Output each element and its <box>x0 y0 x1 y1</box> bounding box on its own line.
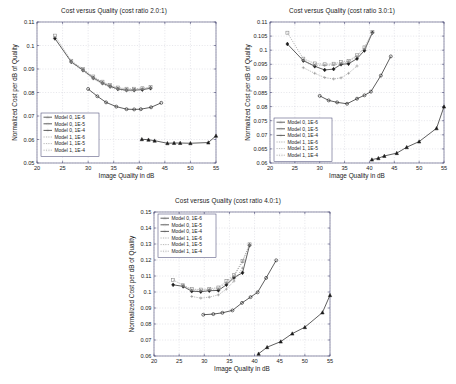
x-tick-label: 35 <box>226 358 232 364</box>
series-model-1-1e-6 <box>192 268 243 298</box>
x-tick-label: 20 <box>34 165 40 171</box>
legend-label: Model 1, 1E-6 <box>55 135 86 140</box>
y-tick-label: 0.07 <box>257 132 268 138</box>
y-tick-label: 0.09 <box>257 75 268 81</box>
x-tick-label: 40 <box>366 165 372 171</box>
legend-label: Model 1, 1E-6 <box>288 140 319 145</box>
data-point-diamond <box>241 271 244 275</box>
x-tick-label: 25 <box>59 165 65 171</box>
legend-label: Model 1, 1E-5 <box>172 242 203 247</box>
legend-label: Model 0, 1E-4 <box>172 229 203 234</box>
x-tick-label: 55 <box>441 165 447 171</box>
x-tick-label: 55 <box>327 358 333 364</box>
data-point-plus <box>217 293 220 296</box>
y-tick-label: 0.09 <box>24 66 35 72</box>
legend-label: Model 0, 1E-6 <box>172 216 203 221</box>
y-tick-label: 0.07 <box>24 113 35 119</box>
x-tick-label: 25 <box>292 165 298 171</box>
data-point-plus <box>340 76 343 79</box>
x-tick-label: 25 <box>176 358 182 364</box>
data-point-plus <box>199 297 202 300</box>
series-model-1-1e-6 <box>303 66 357 79</box>
chart-legend: Model 0, 1E-6Model 0, 1E-5Model 0, 1E-4M… <box>41 113 99 157</box>
legend-label: Model 0, 1E-5 <box>172 223 203 228</box>
x-tick-label: 30 <box>317 165 323 171</box>
y-tick-label: 0.12 <box>141 257 152 263</box>
x-tick-label: 45 <box>391 165 397 171</box>
x-tick-label: 50 <box>302 358 308 364</box>
x-tick-label: 55 <box>213 165 219 171</box>
chart-panel-ratio-2: Cost versus Quality (cost ratio 2.0:1) 2… <box>0 0 228 192</box>
y-tick-label: 0.06 <box>24 137 35 143</box>
x-axis-label: Image Quality in dB <box>329 172 385 180</box>
y-tick-label: 0.1 <box>260 47 268 53</box>
series-model-0-1e-5 <box>203 260 276 314</box>
legend-label: Model 1, 1E-4 <box>55 148 86 153</box>
y-tick-label: 0.09 <box>141 305 152 311</box>
y-tick-label: 0.07 <box>141 337 152 343</box>
data-point-diamond <box>323 68 326 72</box>
y-tick-label: 0.06 <box>141 353 152 359</box>
x-axis-label: Image Quality in dB <box>214 365 270 373</box>
y-tick-label: 0.11 <box>257 19 267 25</box>
data-point-plus <box>190 295 193 298</box>
x-tick-label: 30 <box>201 358 207 364</box>
data-point-triangle <box>405 145 408 148</box>
y-tick-label: 0.15 <box>141 209 152 215</box>
x-tick-label: 40 <box>251 358 257 364</box>
y-tick-label: 0.065 <box>253 146 267 152</box>
x-tick-label: 20 <box>267 165 273 171</box>
y-tick-label: 0.11 <box>141 273 151 279</box>
legend-label: Model 0, 1E-4 <box>288 133 319 138</box>
y-tick-label: 0.075 <box>253 118 267 124</box>
y-tick-label: 0.085 <box>253 90 267 96</box>
data-point-plus <box>347 72 350 75</box>
series-model-1-1e-6 <box>71 62 134 90</box>
legend-label: Model 0, 1E-6 <box>55 115 86 120</box>
y-axis-label: Normalized Cost per dB of Quality <box>244 43 252 140</box>
y-tick-label: 0.08 <box>141 321 152 327</box>
y-axis-label: Normalized Cost per dB of Quality <box>11 43 19 140</box>
x-tick-label: 50 <box>187 165 193 171</box>
x-tick-label: 20 <box>151 358 157 364</box>
data-point-triangle <box>395 151 398 154</box>
series-model-0-1e-5 <box>320 56 391 103</box>
data-point-triangle <box>291 332 294 335</box>
y-tick-label: 0.105 <box>253 33 267 39</box>
legend-label: Model 1, 1E-6 <box>172 236 203 241</box>
y-tick-label: 0.06 <box>257 160 268 166</box>
data-point-triangle <box>328 293 331 296</box>
y-tick-label: 0.1 <box>144 289 152 295</box>
data-point-plus <box>313 72 316 75</box>
y-tick-label: 0.11 <box>24 19 34 25</box>
legend-label: Model 0, 1E-5 <box>55 122 86 127</box>
series-model-1-1e-5 <box>303 33 372 65</box>
x-tick-label: 45 <box>162 165 168 171</box>
data-point-plus <box>323 76 326 79</box>
series-model-1-1e-4 <box>287 32 372 64</box>
y-tick-label: 0.14 <box>141 225 152 231</box>
series-model-0-1e-6 <box>259 295 330 354</box>
x-axis-label: Image Quality in dB <box>99 172 155 180</box>
legend-label: Model 1, 1E-5 <box>55 141 86 146</box>
legend-label: Model 0, 1E-4 <box>55 128 86 133</box>
data-point-plus <box>208 296 211 299</box>
data-point-plus <box>332 77 335 80</box>
series-model-0-1e-6 <box>372 107 444 160</box>
chart-legend: Model 0, 1E-6Model 0, 1E-5Model 0, 1E-4M… <box>274 118 332 162</box>
plot-area: 20253035404550550.060.070.080.090.10.110… <box>114 190 342 384</box>
chart-panel-ratio-3: Cost versus Quality (cost ratio 3.0:1) 2… <box>228 0 456 192</box>
legend-label: Model 0, 1E-5 <box>288 127 319 132</box>
plot-area: 20253035404550550.050.060.070.080.090.10… <box>0 0 228 192</box>
y-tick-label: 0.095 <box>253 61 267 67</box>
chart-panel-ratio-4: Cost versus Quality (cost ratio 4.0:1) 2… <box>114 190 342 384</box>
y-tick-label: 0.13 <box>141 241 152 247</box>
data-point-diamond <box>332 67 335 71</box>
chart-legend: Model 0, 1E-6Model 0, 1E-5Model 0, 1E-4M… <box>158 214 216 258</box>
legend-label: Model 1, 1E-4 <box>172 249 203 254</box>
x-tick-label: 35 <box>341 165 347 171</box>
data-point-triangle <box>321 311 324 314</box>
data-point-plus <box>302 66 305 69</box>
data-point-triangle <box>435 127 438 130</box>
x-tick-label: 45 <box>277 358 283 364</box>
